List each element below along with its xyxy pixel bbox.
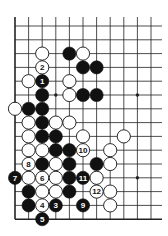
black-stone-icon [63,171,76,184]
star-point [136,176,139,179]
black-stone [36,116,49,129]
move-number: 6 [40,174,45,183]
white-stone-icon [90,171,103,184]
black-stone [90,61,103,74]
white-stone-icon [49,157,62,170]
black-stone [22,199,35,212]
black-stone-icon [63,185,76,198]
white-stone [8,102,21,115]
white-stone [63,75,76,88]
white-stone [49,116,62,129]
black-stone-icon [36,130,49,143]
black-stone-icon [90,88,103,101]
black-stone-icon [49,130,62,143]
black-stone [63,171,76,184]
black-stone [36,130,49,143]
move-number: 2 [40,63,45,72]
white-stone-icon [22,144,35,157]
black-stone-move-9: 9 [76,199,89,212]
move-number: 5 [40,215,45,224]
black-stone-icon [36,88,49,101]
black-stone-move-1: 1 [36,75,49,88]
black-stone-icon [22,102,35,115]
white-stone-icon [76,47,89,60]
move-number: 8 [26,160,31,169]
white-stone [36,185,49,198]
white-stone [63,116,76,129]
white-stone-icon [49,185,62,198]
black-stone-icon [76,88,89,101]
black-stone-move-7: 7 [8,171,21,184]
black-stone [63,47,76,60]
move-number: 12 [92,187,101,196]
white-stone-icon [63,116,76,129]
black-stone [49,130,62,143]
black-stone-icon [63,144,76,157]
black-stone-icon [22,185,35,198]
black-stone [63,157,76,170]
star-point [136,93,139,96]
black-stone [22,185,35,198]
white-stone-icon [63,75,76,88]
move-number: 11 [79,174,88,183]
black-stone [36,88,49,101]
white-stone-icon [117,130,130,143]
white-stone [36,144,49,157]
white-stone [22,130,35,143]
black-stone [90,157,103,170]
white-stone-icon [22,130,35,143]
white-stone-icon [36,185,49,198]
black-stone [76,88,89,101]
white-stone [36,47,49,60]
black-stone [63,144,76,157]
white-stone-icon [49,116,62,129]
white-stone [63,88,76,101]
black-stone [90,88,103,101]
black-stone-move-5: 5 [36,213,49,226]
black-stone [36,102,49,115]
white-stone-icon [22,75,35,88]
white-stone [22,116,35,129]
white-stone-icon [63,88,76,101]
black-stone-icon [90,61,103,74]
white-stone [76,130,89,143]
white-stone [49,171,62,184]
white-stone-icon [22,116,35,129]
black-stone-icon [76,61,89,74]
white-stone [76,47,89,60]
white-stone-icon [104,144,117,157]
white-stone-icon [36,144,49,157]
black-stone [76,61,89,74]
star-point [54,93,57,96]
white-stone-move-12: 12 [90,185,103,198]
white-stone [90,171,103,184]
white-stone [117,130,130,143]
white-stone-move-4: 4 [36,199,49,212]
black-stone-icon [63,47,76,60]
white-stone [104,199,117,212]
white-stone [49,185,62,198]
white-stone [22,75,35,88]
move-number: 10 [79,146,88,155]
black-stone [49,144,62,157]
black-stone-move-11: 11 [76,171,89,184]
black-stone-icon [22,199,35,212]
white-stone-move-8: 8 [22,157,35,170]
black-stone [22,102,35,115]
white-stone-icon [76,130,89,143]
white-stone [22,144,35,157]
white-stone-icon [49,171,62,184]
white-stone [104,157,117,170]
white-stone-icon [104,185,117,198]
white-stone-icon [8,102,21,115]
black-stone-move-3: 3 [49,199,62,212]
black-stone-icon [49,144,62,157]
move-number: 7 [13,174,18,183]
black-stone-icon [36,116,49,129]
white-stone [22,171,35,184]
black-stone-icon [63,157,76,170]
white-stone-icon [104,157,117,170]
move-number: 1 [40,77,45,86]
move-number: 3 [54,201,59,210]
white-stone [104,185,117,198]
